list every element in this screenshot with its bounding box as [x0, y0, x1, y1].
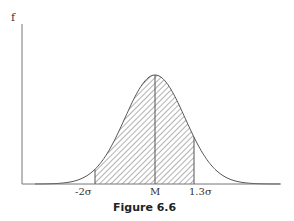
figure-caption: Figure 6.6: [113, 201, 177, 214]
tick-label-right: 1.3σ: [189, 186, 212, 197]
tick-label-mean: M: [150, 186, 160, 197]
tick-label-left: -2σ: [75, 186, 92, 197]
shaded-region: [35, 75, 280, 184]
normal-curve-figure: f -2σ M 1.3σ Figure 6.6: [0, 0, 294, 221]
y-axis-label: f: [11, 11, 16, 24]
